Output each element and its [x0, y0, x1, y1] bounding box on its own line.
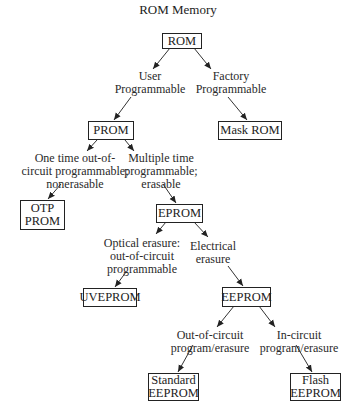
arrow-factory-to-maskrom [228, 97, 247, 120]
rom-memory-diagram: ROM Memory ROM PROM Mask ROM OTP PROM EP… [0, 0, 356, 416]
arrow-eeprom-to-incircuit [259, 306, 275, 327]
arrow-eprom-to-electrical [194, 222, 208, 237]
label-in-circuit: In-circuit program/erasure [251, 329, 347, 355]
arrow-rom-to-factory [194, 48, 211, 69]
node-rom: ROM [162, 33, 202, 49]
label-one-time-programmable: One time out-of- circuit programmable; n… [20, 152, 130, 191]
node-eeprom: EEPROM [222, 287, 271, 307]
arrow-user-to-prom [114, 97, 131, 120]
arrow-prom-to-onetime [87, 140, 97, 151]
label-factory-programmable: Factory Programmable [186, 70, 276, 96]
arrow-eprom-to-optical [156, 222, 166, 234]
arrow-rom-to-user [153, 48, 170, 69]
node-uveprom: UVEPROM [83, 288, 137, 307]
node-eprom: EPROM [156, 204, 203, 223]
node-standard-eeprom: Standard EEPROM [148, 373, 199, 401]
label-out-of-circuit: Out-of-circuit program/erasure [162, 329, 258, 355]
label-user-programmable: User Programmable [105, 70, 195, 96]
arrow-electrical-to-eeprom [228, 266, 243, 286]
label-electrical-erasure: Electrical erasure [180, 240, 246, 266]
node-otp-prom: OTP PROM [20, 200, 65, 230]
node-flash-eeprom: Flash EEPROM [290, 373, 341, 401]
arrow-prom-to-multiple [125, 140, 134, 151]
label-multiple-time-programmable: Multiple time programmable; erasable [117, 152, 205, 191]
node-mask-rom: Mask ROM [218, 121, 282, 140]
label-optical-erasure: Optical erasure: out-of-circuit programm… [97, 237, 187, 276]
node-prom: PROM [88, 121, 134, 140]
arrow-eeprom-to-outofcircuit [217, 306, 234, 327]
diagram-title: ROM Memory [0, 2, 356, 17]
